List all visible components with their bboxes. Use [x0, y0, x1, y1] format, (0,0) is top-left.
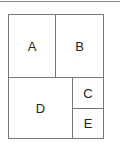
cell-e: E	[73, 109, 103, 138]
cell-d: D	[9, 78, 72, 138]
cell-a-label: A	[28, 39, 37, 54]
cell-d-label: D	[36, 101, 45, 116]
cell-e-label: E	[84, 116, 93, 131]
cell-c: C	[73, 78, 103, 108]
cell-b-label: B	[75, 39, 84, 54]
top-divider	[0, 1, 120, 2]
cell-a: A	[9, 15, 55, 77]
cell-c-label: C	[83, 86, 92, 101]
cell-b: B	[56, 15, 103, 77]
layout-frame: A B D C E	[8, 14, 104, 139]
